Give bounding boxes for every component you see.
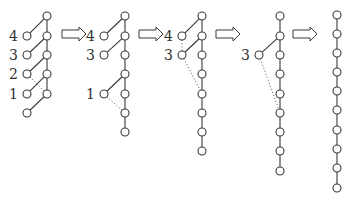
node-label: 4 <box>86 28 95 44</box>
side-edge <box>185 39 199 52</box>
spine-node <box>198 51 206 59</box>
node-label: 3 <box>164 47 173 63</box>
spine-node <box>333 49 341 57</box>
spine-node <box>198 32 206 40</box>
spine-node <box>198 70 206 78</box>
node-label: 3 <box>9 47 18 63</box>
spine-node <box>276 90 284 98</box>
node-label: 3 <box>241 47 250 63</box>
spine-node <box>276 70 284 78</box>
tree-stage-1: 4321 <box>9 12 51 117</box>
side-edge <box>30 19 44 33</box>
spine-node <box>276 167 284 175</box>
side-edge <box>30 97 44 110</box>
spine-node <box>43 12 51 20</box>
spine-node <box>43 90 51 98</box>
dotted-edge <box>107 97 122 111</box>
side-node <box>178 32 186 40</box>
side-node <box>100 51 108 59</box>
side-node <box>255 51 263 59</box>
node-label: 1 <box>86 86 95 102</box>
spine-node <box>333 68 341 76</box>
tree-stage-2: 431 <box>86 12 129 136</box>
right-arrow-icon <box>216 27 240 41</box>
side-node <box>23 70 31 78</box>
node-label: 3 <box>86 47 95 63</box>
tree-stage-5 <box>333 11 341 192</box>
node-label: 4 <box>9 28 18 44</box>
tree-stage-3: 43 <box>164 12 206 155</box>
side-edge <box>30 77 44 91</box>
tree-merge-diagram: 4321431433 <box>0 0 357 201</box>
spine-node <box>333 145 341 153</box>
right-arrow-icon <box>62 27 86 41</box>
spine-node <box>121 32 129 40</box>
spine-node <box>333 164 341 172</box>
spine-node <box>121 109 129 117</box>
spine-node <box>333 30 341 38</box>
side-edge <box>107 39 122 53</box>
spine-node <box>276 32 284 40</box>
spine-node <box>43 51 51 59</box>
spine-node <box>121 70 129 78</box>
spine-node <box>198 12 206 20</box>
node-label: 1 <box>9 86 18 102</box>
node-label: 4 <box>164 28 173 44</box>
spine-node <box>276 12 284 20</box>
side-node <box>23 109 31 117</box>
spine-node <box>333 106 341 114</box>
side-edge <box>262 39 277 53</box>
spine-node <box>198 109 206 117</box>
spine-node <box>276 147 284 155</box>
spine-node <box>333 11 341 19</box>
right-arrow-icon <box>139 27 163 41</box>
right-arrow-icon <box>293 27 317 41</box>
side-edge <box>107 19 122 33</box>
side-edge <box>107 77 122 91</box>
spine-node <box>198 128 206 136</box>
side-node <box>23 51 31 59</box>
spine-node <box>333 126 341 134</box>
side-node <box>178 51 186 59</box>
spine-node <box>43 70 51 78</box>
spine-node <box>198 90 206 98</box>
spine-node <box>333 87 341 95</box>
side-node <box>100 32 108 40</box>
side-edge <box>185 19 199 33</box>
spine-node <box>121 51 129 59</box>
node-label: 2 <box>9 66 18 82</box>
side-edge <box>30 58 44 71</box>
spine-node <box>198 147 206 155</box>
side-edge <box>30 39 44 52</box>
side-node <box>23 32 31 40</box>
tree-stage-4: 3 <box>241 12 284 175</box>
side-node <box>100 90 108 98</box>
spine-node <box>121 90 129 98</box>
spine-node <box>43 32 51 40</box>
side-node <box>23 90 31 98</box>
dotted-edge <box>260 59 278 109</box>
spine-node <box>121 12 129 20</box>
spine-node <box>333 184 341 192</box>
spine-node <box>276 109 284 117</box>
spine-node <box>276 128 284 136</box>
spine-node <box>121 128 129 136</box>
spine-node <box>276 51 284 59</box>
